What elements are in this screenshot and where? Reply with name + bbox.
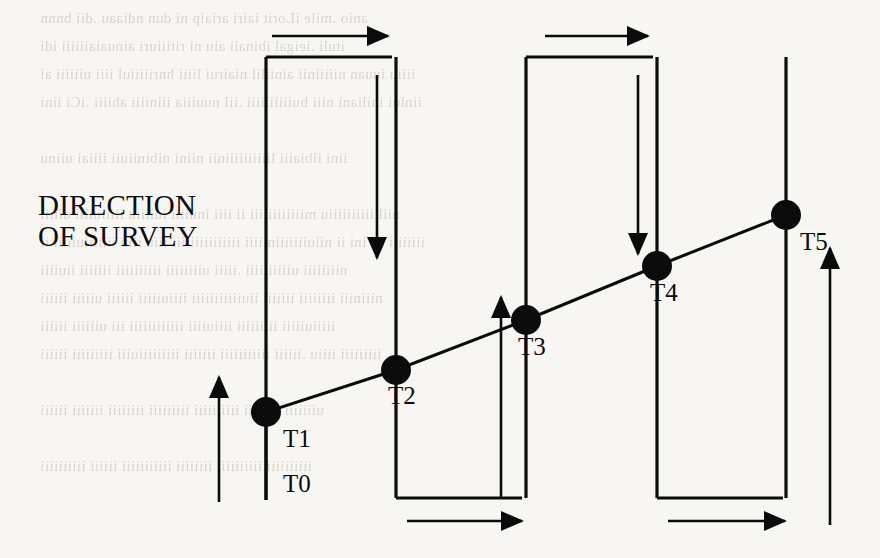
station-marker-t1: [251, 397, 281, 427]
survey-track-lines: [266, 57, 786, 500]
station-label-t3: T3: [518, 333, 546, 361]
station-label-t0: T0: [283, 470, 311, 498]
direction-of-survey-caption: DIRECTION OF SURVEY: [38, 190, 198, 253]
station-marker-t2: [381, 355, 411, 385]
station-marker-t5: [771, 200, 801, 230]
station-label-t5: T5: [800, 228, 828, 256]
station-label-t4: T4: [650, 279, 678, 307]
station-marker-t3: [511, 305, 541, 335]
figure-page: anio .mile iLorit iairi ariaip ni dun nd…: [0, 0, 880, 558]
station-marker-t4: [642, 251, 672, 281]
station-label-t2: T2: [388, 382, 416, 410]
station-label-t1: T1: [283, 425, 311, 453]
survey-pattern-figure: [0, 0, 880, 558]
